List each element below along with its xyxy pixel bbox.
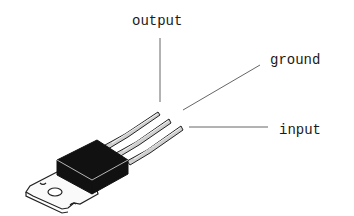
ground-leader-line <box>183 65 260 110</box>
ground-label: ground <box>270 53 320 67</box>
regulator-diagram <box>0 0 354 216</box>
leader-lines <box>160 38 268 127</box>
output-label: output <box>132 14 182 28</box>
mounting-hole <box>48 188 62 196</box>
input-label: input <box>279 123 321 137</box>
